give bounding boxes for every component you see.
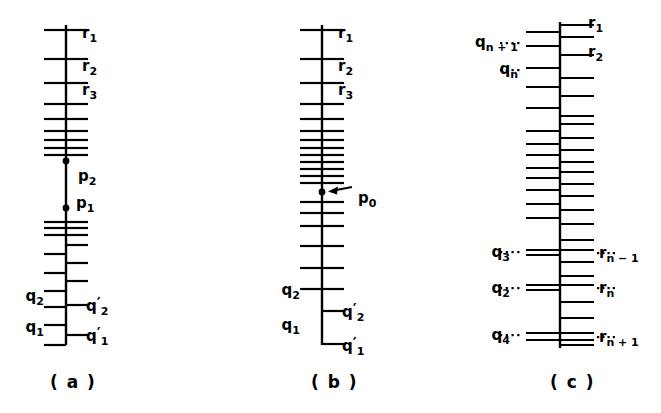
panel-c-label-qn: qn bbox=[499, 61, 518, 80]
panel-a-label-q2: q2 bbox=[26, 288, 44, 307]
panel-c-left-leader-2 bbox=[512, 251, 514, 253]
panel-b-arrow-head bbox=[328, 187, 338, 195]
panel-b-label-r2: r2 bbox=[338, 58, 353, 77]
caption-panel-a: ( a ) bbox=[50, 372, 96, 392]
panel-c-label-rn+1: rn + 1 bbox=[599, 329, 639, 348]
caption-panel-c: ( c ) bbox=[550, 372, 595, 392]
panel-a-label-p1: p1 bbox=[76, 195, 94, 214]
panel-b-label-q1: q1 bbox=[282, 317, 300, 336]
panel-b-label-p0: p0 bbox=[358, 190, 376, 209]
diagram-canvas bbox=[0, 0, 661, 413]
panel-c-label-q3: q3 bbox=[492, 244, 510, 263]
panel-c-left-leader-3 bbox=[512, 287, 514, 289]
panel-a-label-q1-prime: q′1 bbox=[86, 327, 108, 347]
panel-a-label-q1: q1 bbox=[26, 319, 44, 338]
panel-c-label-rn: rn bbox=[599, 280, 614, 299]
panel-c-label-qn+1: qn + 1 bbox=[475, 34, 518, 53]
caption-panel-b: ( b ) bbox=[311, 372, 358, 392]
panel-a-point-p2 bbox=[63, 158, 70, 165]
panel-c-label-r1: r1 bbox=[588, 15, 603, 34]
panel-c-label-q4: q4 bbox=[492, 327, 510, 346]
panel-c-left-leader-4 bbox=[517, 334, 519, 336]
panel-a-label-r1: r1 bbox=[82, 25, 97, 44]
panel-b-label-q1-prime: q′1 bbox=[342, 337, 364, 357]
panel-c-label-q2: q2 bbox=[492, 280, 510, 299]
panel-c-label-r2: r2 bbox=[588, 44, 603, 63]
panel-b-label-q2-prime: q′2 bbox=[342, 303, 364, 323]
figure-three-number-lines: r1 r2 r3 q′2 q′1 q2 q1 p2 p1 r1 r2 r3 q′… bbox=[0, 0, 661, 413]
panel-b-label-r3: r3 bbox=[338, 82, 353, 101]
panel-b-label-r1: r1 bbox=[338, 25, 353, 44]
panel-a-label-r3: r3 bbox=[82, 82, 97, 101]
panel-a-label-q2-prime: q′2 bbox=[86, 297, 108, 317]
panel-a-label-p2: p2 bbox=[78, 168, 96, 187]
panel-c-left-leader-2 bbox=[517, 251, 519, 253]
panel-a-label-r2: r2 bbox=[82, 58, 97, 77]
panel-c-label-rn-1: rn − 1 bbox=[599, 245, 639, 264]
panel-b-point-p0 bbox=[319, 189, 326, 196]
panel-b-label-q2: q2 bbox=[282, 282, 300, 301]
panel-a-point-p1 bbox=[63, 205, 70, 212]
panel-c-left-leader-3 bbox=[517, 287, 519, 289]
panel-c-left-leader-4 bbox=[512, 334, 514, 336]
